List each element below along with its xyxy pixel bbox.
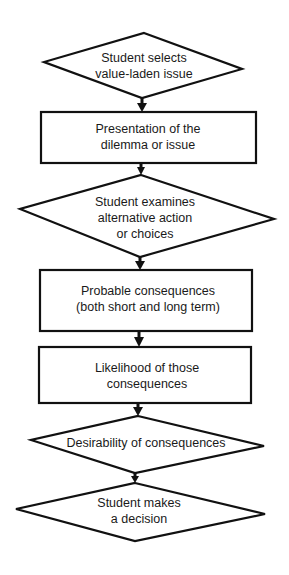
flowchart: Student selects value-laden issue Presen… [0,0,289,575]
label-line: Student examines [95,194,195,210]
label-line: Student makes [97,495,180,511]
label-line: Likelihood of those [95,360,199,376]
connector-n5-n6 [133,403,143,416]
label-line: value-laden issue [95,66,192,82]
node-label-examine-alternatives: Student examines alternative action or c… [95,194,195,242]
connector-n2-n3 [137,163,145,175]
label-line: dilemma or issue [96,137,201,153]
label-line: Probable consequences [76,283,220,299]
connector-n1-n2 [137,98,147,112]
connector-n3-n4 [135,257,145,270]
label-line: (both short and long term) [76,299,220,315]
node-label-make-decision: Student makes a decision [97,495,180,527]
connector-n4-n5 [134,331,144,347]
connector-n6-n7 [131,473,139,483]
label-line: Student selects [95,50,192,66]
node-label-desirability: Desirability of consequences [66,435,225,451]
node-label-select-issue: Student selects value-laden issue [95,50,192,82]
label-line: a decision [97,511,180,527]
label-line: Presentation of the [96,121,201,137]
label-line: alternative action [95,210,195,226]
node-label-likelihood: Likelihood of those consequences [95,360,199,392]
node-label-presentation: Presentation of the dilemma or issue [96,121,201,153]
node-label-probable-consequences: Probable consequences (both short and lo… [76,283,220,315]
label-line: or choices [95,226,195,242]
label-line: Desirability of consequences [66,435,225,451]
label-line: consequences [95,376,199,392]
